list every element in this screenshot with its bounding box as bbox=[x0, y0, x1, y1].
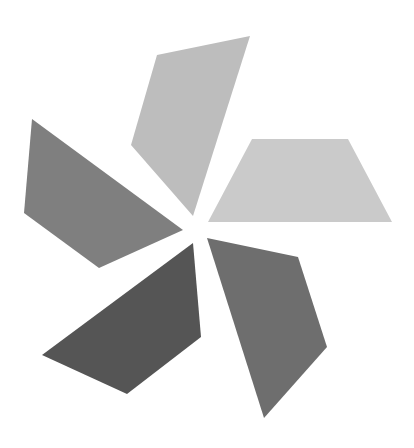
bottom-right-blade-shape bbox=[207, 238, 327, 418]
right-blade-shape bbox=[208, 139, 392, 222]
pinwheel-logo-canvas bbox=[0, 0, 414, 448]
bottom-left-blade-shape bbox=[42, 243, 201, 394]
pinwheel-logo bbox=[0, 0, 414, 448]
